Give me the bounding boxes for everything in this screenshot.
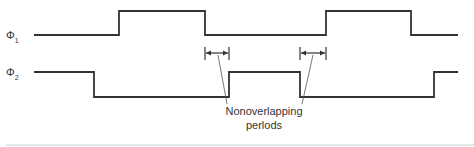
phi2-waveform bbox=[34, 72, 458, 97]
phi1-waveform bbox=[34, 11, 458, 35]
phi2-label: Φ2 bbox=[6, 66, 19, 81]
nonoverlap-marker-2 bbox=[300, 47, 326, 60]
phi1-label: Φ1 bbox=[6, 29, 19, 44]
annotation-line-2: perlods bbox=[246, 119, 283, 131]
timing-diagram: Φ1 Φ2 Nonoverlapping perlods bbox=[0, 0, 474, 147]
annotation-line-1: Nonoverlapping bbox=[225, 105, 302, 117]
nonoverlap-marker-1 bbox=[205, 47, 229, 60]
